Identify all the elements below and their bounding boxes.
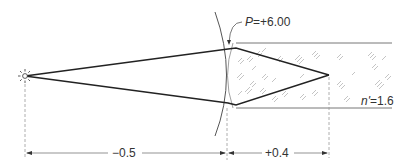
image-distance-dimension: +0.4 bbox=[228, 146, 328, 160]
object-distance-dimension: −0.5 bbox=[26, 146, 226, 160]
image-distance-label: +0.4 bbox=[265, 146, 289, 160]
power-label: P=+6.00 bbox=[245, 15, 291, 29]
refraction-diagram: P=+6.00 n'=1.6 −0.5 +0.4 bbox=[0, 0, 410, 166]
light-rays bbox=[25, 48, 329, 105]
glass-surface-edge bbox=[228, 43, 234, 108]
power-leader-arrow bbox=[227, 40, 231, 45]
index-label: n'=1.6 bbox=[361, 94, 394, 108]
power-leader bbox=[229, 22, 242, 43]
object-distance-label: −0.5 bbox=[112, 146, 136, 160]
refracting-surface bbox=[215, 12, 227, 136]
